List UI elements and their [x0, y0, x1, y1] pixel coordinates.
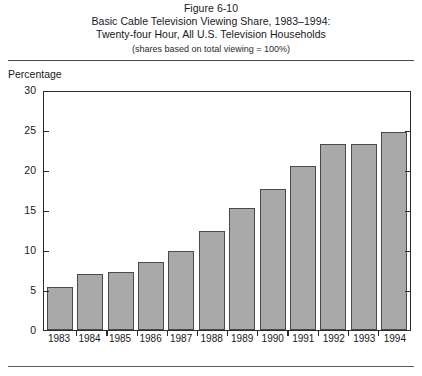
- y-tick-mark-right: [405, 251, 411, 252]
- plot-area: [43, 91, 411, 331]
- bar-slot: [229, 92, 255, 330]
- bar-slot: [47, 92, 73, 330]
- x-tick-label-1983: 1983: [46, 333, 72, 344]
- bar-slot: [381, 92, 407, 330]
- y-axis-title: Percentage: [8, 68, 62, 80]
- y-tick-mark-right: [405, 211, 411, 212]
- bar-slot: [351, 92, 377, 330]
- y-tick-mark-left: [43, 131, 49, 132]
- bar-slot: [168, 92, 194, 330]
- x-tick-label-1989: 1989: [229, 333, 255, 344]
- y-tick-mark-right: [405, 291, 411, 292]
- x-tick-label-1994: 1994: [382, 333, 408, 344]
- bar-slot: [199, 92, 225, 330]
- y-tick-label: 0: [0, 324, 36, 336]
- bar-slot: [320, 92, 346, 330]
- y-tick-mark-right: [405, 131, 411, 132]
- y-tick-mark-left: [43, 251, 49, 252]
- bar-series: [44, 92, 410, 330]
- figure-container: Figure 6-10 Basic Cable Television Viewi…: [0, 0, 422, 376]
- bar-slot: [77, 92, 103, 330]
- x-tick-label-1990: 1990: [260, 333, 286, 344]
- bar-1986: [138, 262, 164, 330]
- figure-subtitle: (shares based on total viewing = 100%): [0, 43, 422, 56]
- y-tick-label: 20: [0, 164, 36, 176]
- header-divider: [8, 60, 414, 61]
- bar-1987: [168, 251, 194, 330]
- bar-1988: [199, 231, 225, 330]
- y-tick-mark-left: [43, 291, 49, 292]
- bar-1994: [381, 132, 407, 330]
- x-tick-label-1992: 1992: [321, 333, 347, 344]
- x-tick-label-1991: 1991: [290, 333, 316, 344]
- x-tick-label-1993: 1993: [351, 333, 377, 344]
- bar-1992: [320, 144, 346, 330]
- y-tick-mark-right: [405, 171, 411, 172]
- y-tick-label: 10: [0, 244, 36, 256]
- bar-slot: [138, 92, 164, 330]
- bar-1985: [108, 272, 134, 330]
- bar-1989: [229, 208, 255, 330]
- bar-slot: [290, 92, 316, 330]
- y-tick-label: 15: [0, 204, 36, 216]
- y-tick-label: 25: [0, 124, 36, 136]
- bar-1984: [77, 274, 103, 330]
- bar-1993: [351, 144, 377, 330]
- y-tick-mark-left: [43, 211, 49, 212]
- x-tick-label-1988: 1988: [199, 333, 225, 344]
- x-tick-label-1987: 1987: [168, 333, 194, 344]
- figure-title-line-2: Twenty-four Hour, All U.S. Television Ho…: [0, 28, 422, 41]
- y-tick-mark-left: [43, 171, 49, 172]
- x-tick-label-1986: 1986: [138, 333, 164, 344]
- footer-divider: [8, 366, 414, 367]
- bar-1983: [47, 287, 73, 330]
- bar-1990: [260, 189, 286, 330]
- bar-1991: [290, 166, 316, 330]
- y-tick-label: 5: [0, 284, 36, 296]
- bar-slot: [108, 92, 134, 330]
- figure-number: Figure 6-10: [0, 2, 422, 15]
- x-axis-labels: 1983198419851986198719881989199019911992…: [43, 333, 411, 344]
- figure-titles: Figure 6-10 Basic Cable Television Viewi…: [0, 2, 422, 56]
- figure-title-line-1: Basic Cable Television Viewing Share, 19…: [0, 15, 422, 28]
- x-tick-label-1985: 1985: [107, 333, 133, 344]
- x-tick-label-1984: 1984: [77, 333, 103, 344]
- bar-slot: [260, 92, 286, 330]
- y-tick-label: 30: [0, 84, 36, 96]
